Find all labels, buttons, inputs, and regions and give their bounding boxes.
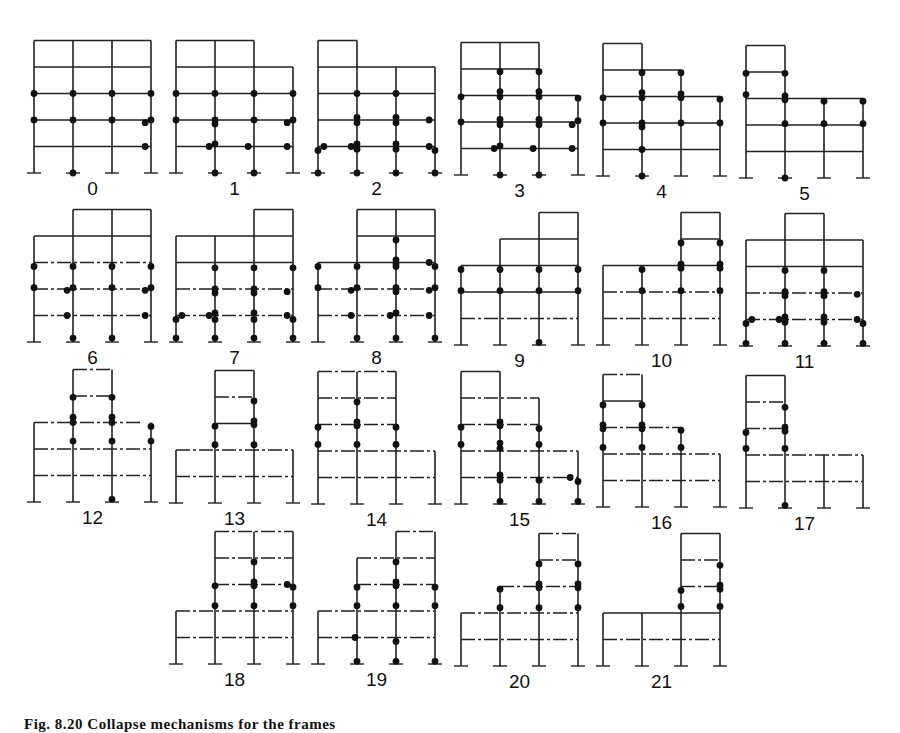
plastic-hinge-icon [575,604,582,611]
plastic-hinge-icon [821,98,828,105]
plastic-hinge-icon [782,428,789,435]
plastic-hinge-icon [284,288,291,295]
plastic-hinge-icon [354,90,361,97]
frame-label: 9 [514,350,525,371]
plastic-hinge-icon [536,339,543,346]
frame-3: 3 [454,43,585,202]
plastic-hinge-icon [575,266,582,273]
plastic-hinge-icon [290,90,297,97]
plastic-hinge-icon [251,421,258,428]
plastic-hinge-icon [290,264,297,271]
plastic-hinge-icon [782,96,789,103]
figure-caption: Fig. 8.20 Collapse mechanisms for the fr… [24,716,336,733]
frame-label: 1 [229,178,240,199]
plastic-hinge-icon [393,263,400,270]
plastic-hinge-icon [148,284,155,291]
frame-label: 19 [366,669,387,690]
frame-13: 13 [169,371,300,530]
plastic-hinge-icon [536,93,543,100]
plastic-hinge-icon [458,287,465,294]
plastic-hinge-icon [497,266,504,273]
frame-label: 18 [224,669,245,690]
plastic-hinge-icon [354,584,361,591]
frame-16: 16 [596,375,727,534]
plastic-hinge-icon [70,117,77,124]
plastic-hinge-icon [212,316,219,323]
frame-label: 7 [229,347,240,368]
plastic-hinge-icon [212,423,219,430]
plastic-hinge-icon [393,602,400,609]
plastic-hinge-icon [251,170,258,177]
plastic-hinge-icon [821,120,828,127]
plastic-hinge-icon [393,146,400,153]
plastic-hinge-icon [70,335,77,342]
frame-label: 14 [366,509,388,530]
plastic-hinge-icon [458,93,465,100]
plastic-hinge-icon [426,259,433,266]
frame-1: 1 [169,41,300,200]
plastic-hinge-icon [393,237,400,244]
plastic-hinge-icon [743,320,750,327]
plastic-hinge-icon [354,146,361,153]
plastic-hinge-icon [575,117,582,124]
plastic-hinge-icon [458,424,465,431]
plastic-hinge-icon [251,582,258,589]
plastic-hinge-icon [639,402,646,409]
plastic-hinge-icon [393,658,400,665]
plastic-hinge-icon [148,90,155,97]
plastic-hinge-icon [432,335,439,342]
plastic-hinge-icon [393,335,400,342]
frame-label: 8 [371,347,382,368]
plastic-hinge-icon [567,474,574,481]
plastic-hinge-icon [536,584,543,591]
plastic-hinge-icon [782,70,789,77]
plastic-hinge-icon [251,309,258,316]
plastic-hinge-icon [290,117,297,124]
plastic-hinge-icon [70,90,77,97]
plastic-hinge-icon [315,170,322,177]
plastic-hinge-icon [212,290,219,297]
plastic-hinge-icon [251,335,258,342]
plastic-hinge-icon [212,170,219,177]
plastic-hinge-icon [458,119,465,126]
plastic-hinge-icon [536,287,543,294]
plastic-hinge-icon [575,287,582,294]
plastic-hinge-icon [497,422,504,429]
plastic-hinge-icon [600,94,607,101]
plastic-hinge-icon [393,90,400,97]
plastic-hinge-icon [352,634,359,641]
plastic-hinge-icon [717,265,724,272]
plastic-hinge-icon [600,444,607,451]
plastic-hinge-icon [717,120,724,127]
plastic-hinge-icon [426,287,433,294]
plastic-hinge-icon [717,603,724,610]
plastic-hinge-icon [678,287,685,294]
plastic-hinge-icon [393,119,400,126]
plastic-hinge-icon [142,312,149,319]
plastic-hinge-icon [212,90,219,97]
plastic-hinge-icon [393,559,400,566]
plastic-hinge-icon [212,309,219,316]
plastic-hinge-icon [860,98,867,105]
plastic-hinge-icon [290,335,297,342]
plastic-hinge-icon [432,602,439,609]
plastic-hinge-icon [600,425,607,432]
frame-label: 5 [799,183,810,204]
plastic-hinge-icon [782,319,789,326]
plastic-hinge-icon [497,172,504,179]
plastic-hinge-icon [491,145,498,152]
plastic-hinge-icon [458,441,465,448]
plastic-hinge-icon [575,561,582,568]
frame-2: 2 [311,41,442,200]
plastic-hinge-icon [678,603,685,610]
plastic-hinge-icon [212,441,219,448]
plastic-hinge-icon [148,117,155,124]
plastic-hinge-icon [212,335,219,342]
plastic-hinge-icon [678,240,685,247]
plastic-hinge-icon [142,287,149,294]
plastic-hinge-icon [639,444,646,451]
plastic-hinge-icon [678,120,685,127]
plastic-hinge-icon [251,264,258,271]
plastic-hinge-icon [109,263,116,270]
